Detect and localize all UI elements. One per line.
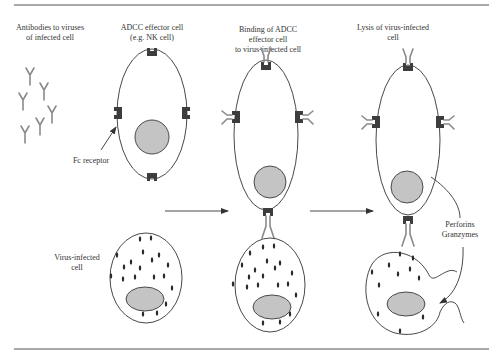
effector-nucleus [135, 120, 169, 154]
panel-label-line: Binding of ADCC [239, 25, 297, 34]
panel-label-line: to virus-infected cell [235, 45, 302, 54]
panel-binding: Binding of ADCC effector cell to virus-i… [222, 25, 313, 332]
perforin-delivery-arrow [440, 247, 463, 303]
fc-receptor-icon [295, 111, 303, 123]
fc-receptor-icon [232, 111, 240, 123]
virus-infected-label: Virus-infected [54, 253, 100, 262]
perforin-release-curve [431, 177, 460, 218]
panel-lysis: Lysis of virus-infected cell Perforins G… [357, 23, 478, 334]
panel-antibodies: Antibodies to viruses of infected cell [16, 23, 84, 143]
fc-receptor-icon [436, 116, 444, 128]
granzymes-label: Granzymes [442, 230, 478, 239]
fc-receptor-icon [403, 216, 413, 224]
fc-receptor-pointer [101, 127, 116, 150]
fc-receptor-icon [263, 208, 273, 216]
antibody-icons [19, 68, 56, 143]
fc-receptor-icon [372, 116, 380, 128]
fc-receptor-icon [147, 173, 157, 181]
panel-label-line: effector cell [249, 35, 288, 44]
fc-receptor-icon [114, 107, 122, 119]
fc-receptor-icon [182, 107, 190, 119]
fc-receptor-label: Fc receptor [73, 156, 110, 165]
fc-receptor-icon [261, 62, 271, 70]
virus-infected-cell: Virus-infected cell [54, 233, 182, 323]
effector-cell-membrane [117, 49, 187, 179]
adcc-diagram: Antibodies to viruses of infected cell A… [0, 0, 489, 358]
panel-label-line: Antibodies to viruses [16, 23, 84, 32]
panel-label-line: ADCC effector cell [121, 23, 184, 32]
panel-effector-cell: ADCC effector cell (e.g. NK cell) Fc rec… [73, 23, 190, 181]
perforins-label: Perforins [445, 220, 474, 229]
panel-label-line: of infected cell [26, 33, 75, 42]
panel-label-line: cell [387, 33, 399, 42]
panel-label-line: Lysis of virus-infected [357, 23, 429, 32]
virus-particles [371, 251, 424, 334]
panel-label-line: (e.g. NK cell) [130, 33, 174, 42]
virus-infected-label: cell [71, 263, 83, 272]
fc-receptor-icon [403, 63, 413, 71]
